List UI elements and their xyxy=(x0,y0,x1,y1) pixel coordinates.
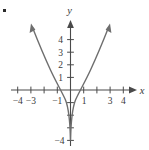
x-axis-label: x xyxy=(139,85,145,96)
x-tick-label-neg4: −4 xyxy=(13,96,23,106)
y-tick-label-2: 2 xyxy=(58,60,63,70)
y-axis-label: y xyxy=(66,5,72,16)
x-tick-label-neg3: −3 xyxy=(26,96,36,106)
y-tick-label-4: 4 xyxy=(58,35,63,45)
x-tick-label-4: 4 xyxy=(121,96,126,106)
x-tick-label-1: 1 xyxy=(82,96,87,106)
y-tick-label-neg4: −4 xyxy=(54,136,64,146)
coordinate-plane: −4 −3 −1 1 3 4 4 3 2 1 −4 y x xyxy=(0,0,149,150)
x-tick-label-neg1: −1 xyxy=(52,96,62,106)
graph-figure: −4 −3 −1 1 3 4 4 3 2 1 −4 y x xyxy=(0,0,149,150)
y-tick-label-3: 3 xyxy=(58,48,63,58)
y-tick-label-1: 1 xyxy=(58,73,63,83)
x-axis xyxy=(11,87,137,94)
x-tick-label-3: 3 xyxy=(108,96,113,106)
